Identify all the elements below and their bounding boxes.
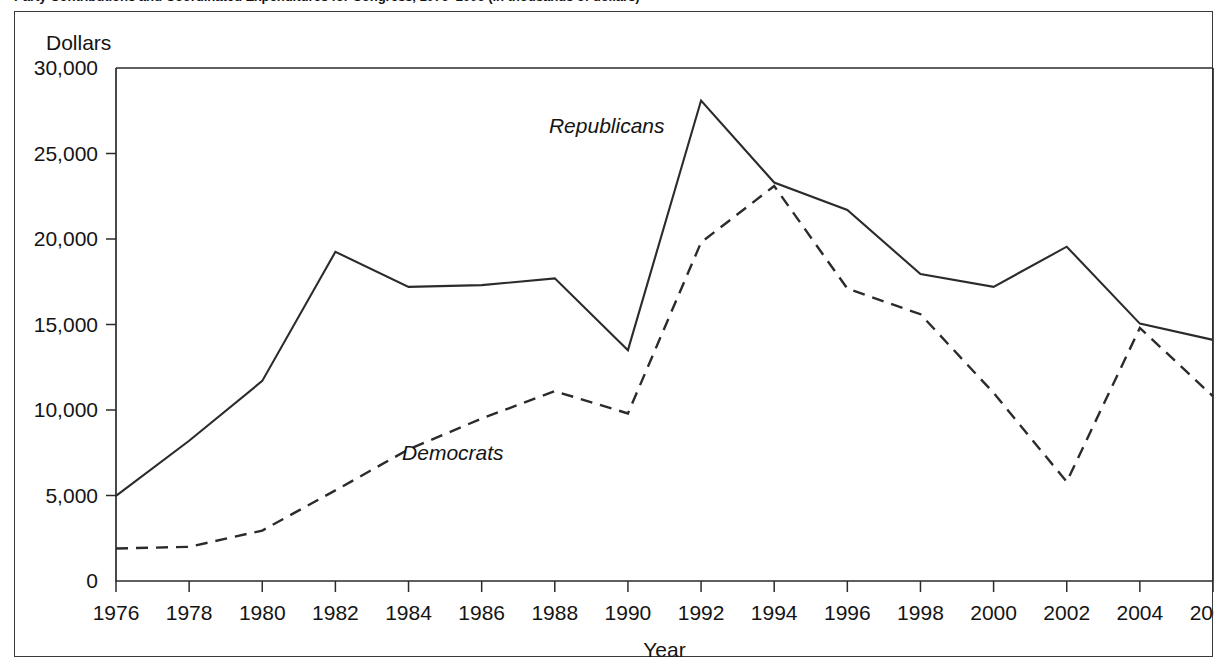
x-tick-label: 1980: [239, 601, 286, 624]
axis-spines: [116, 68, 1213, 581]
x-tick-label: 1998: [897, 601, 944, 624]
y-tick-label: 15,000: [34, 313, 98, 336]
chart-axes: 05,00010,00015,00020,00025,00030,0001976…: [34, 56, 1214, 624]
chart-panel: 05,00010,00015,00020,00025,00030,0001976…: [14, 11, 1213, 657]
x-axis-title: Year: [643, 638, 685, 658]
y-tick-label: 20,000: [34, 227, 98, 250]
series-line-democrats: [116, 186, 1213, 549]
x-tick-label: 1994: [751, 601, 798, 624]
series-label-republicans: Republicans: [549, 114, 665, 137]
x-tick-label: 1984: [385, 601, 432, 624]
x-tick-label: 2006: [1190, 601, 1214, 624]
x-tick-label: 1976: [93, 601, 140, 624]
chart-text-labels: DollarsYearRepublicansDemocrats: [46, 31, 686, 658]
x-tick-label: 1992: [678, 601, 725, 624]
series-line-republicans: [116, 100, 1213, 495]
y-tick-label: 5,000: [45, 484, 98, 507]
y-tick-label: 10,000: [34, 398, 98, 421]
chart-series: [116, 100, 1213, 548]
x-tick-label: 1990: [605, 601, 652, 624]
x-tick-label: 2004: [1117, 601, 1164, 624]
y-tick-label: 30,000: [34, 56, 98, 79]
y-tick-label: 0: [86, 569, 98, 592]
line-chart: 05,00010,00015,00020,00025,00030,0001976…: [15, 12, 1214, 658]
x-tick-label: 1978: [166, 601, 213, 624]
x-tick-label: 2002: [1043, 601, 1090, 624]
x-tick-label: 1996: [824, 601, 871, 624]
y-axis-title: Dollars: [46, 31, 111, 54]
figure-title: Party Contributions and Coordinated Expe…: [8, 0, 1223, 5]
x-tick-label: 1988: [531, 601, 578, 624]
x-tick-label: 2000: [970, 601, 1017, 624]
figure-title-text: Party Contributions and Coordinated Expe…: [14, 0, 640, 4]
y-tick-label: 25,000: [34, 142, 98, 165]
x-tick-label: 1986: [458, 601, 505, 624]
series-label-democrats: Democrats: [402, 441, 504, 464]
x-tick-label: 1982: [312, 601, 359, 624]
